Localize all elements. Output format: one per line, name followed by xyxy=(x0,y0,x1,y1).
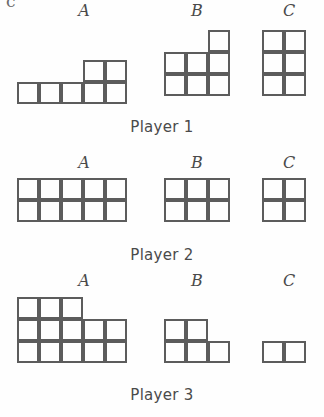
unit-square xyxy=(284,52,306,74)
unit-square xyxy=(17,178,39,200)
unit-square xyxy=(262,74,284,96)
unit-square xyxy=(39,319,61,341)
unit-square xyxy=(17,341,39,363)
shape-b xyxy=(164,319,230,363)
shape-a xyxy=(17,38,127,104)
unit-square xyxy=(83,319,105,341)
shape-label-a: A xyxy=(72,2,96,20)
shape-label-c: C xyxy=(277,2,301,20)
unit-square xyxy=(39,82,61,104)
unit-square xyxy=(17,200,39,222)
unit-square xyxy=(61,200,83,222)
unit-square xyxy=(262,341,284,363)
unit-square xyxy=(284,341,306,363)
shape-a xyxy=(17,297,127,363)
unit-square xyxy=(17,319,39,341)
unit-square xyxy=(208,178,230,200)
shape-c xyxy=(262,178,306,222)
unit-square xyxy=(262,52,284,74)
unit-square xyxy=(17,297,39,319)
unit-square xyxy=(39,297,61,319)
unit-square xyxy=(186,200,208,222)
shape-label-c: C xyxy=(277,272,301,290)
shape-b xyxy=(164,30,230,96)
unit-square xyxy=(208,30,230,52)
unit-square xyxy=(83,60,105,82)
unit-square xyxy=(262,200,284,222)
unit-square xyxy=(262,178,284,200)
shape-label-b: B xyxy=(185,154,209,172)
unit-square xyxy=(83,178,105,200)
unit-square xyxy=(105,319,127,341)
unit-square xyxy=(83,200,105,222)
unit-square xyxy=(164,319,186,341)
unit-square xyxy=(39,200,61,222)
unit-square xyxy=(61,297,83,319)
unit-square xyxy=(83,82,105,104)
unit-square xyxy=(164,341,186,363)
unit-square xyxy=(61,178,83,200)
shape-c xyxy=(262,341,306,363)
unit-square xyxy=(186,178,208,200)
unit-square xyxy=(39,341,61,363)
unit-square xyxy=(208,52,230,74)
unit-square xyxy=(105,341,127,363)
unit-square xyxy=(164,52,186,74)
shape-c xyxy=(262,30,306,96)
unit-square xyxy=(61,341,83,363)
unit-square xyxy=(186,52,208,74)
unit-square xyxy=(164,178,186,200)
shape-label-a: A xyxy=(72,272,96,290)
unit-square xyxy=(208,74,230,96)
shape-label-b: B xyxy=(185,2,209,20)
unit-square xyxy=(284,200,306,222)
unit-square xyxy=(164,74,186,96)
unit-square xyxy=(208,341,230,363)
unit-square xyxy=(284,74,306,96)
unit-square xyxy=(284,30,306,52)
shape-diagram: c ABCPlayer 1ABCPlayer 2ABCPlayer 3 xyxy=(0,0,324,417)
unit-square xyxy=(186,74,208,96)
unit-square xyxy=(105,200,127,222)
unit-square xyxy=(61,82,83,104)
unit-square xyxy=(284,178,306,200)
unit-square xyxy=(164,200,186,222)
shape-a xyxy=(17,178,127,222)
clipped-top-glyph: c xyxy=(6,0,16,11)
unit-square xyxy=(186,319,208,341)
unit-square xyxy=(105,178,127,200)
player-caption: Player 1 xyxy=(0,118,324,136)
player-caption: Player 3 xyxy=(0,386,324,404)
unit-square xyxy=(105,82,127,104)
unit-square xyxy=(208,200,230,222)
shape-label-c: C xyxy=(277,154,301,172)
shape-label-b: B xyxy=(185,272,209,290)
shape-label-a: A xyxy=(72,154,96,172)
unit-square xyxy=(83,341,105,363)
unit-square xyxy=(61,319,83,341)
unit-square xyxy=(186,341,208,363)
unit-square xyxy=(262,30,284,52)
player-caption: Player 2 xyxy=(0,246,324,264)
unit-square xyxy=(39,178,61,200)
unit-square xyxy=(105,60,127,82)
shape-b xyxy=(164,178,230,222)
unit-square xyxy=(17,82,39,104)
